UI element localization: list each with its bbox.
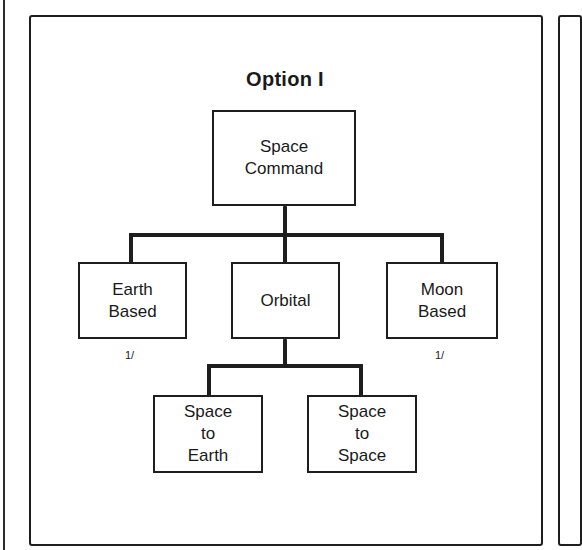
connector-moon-based bbox=[440, 233, 444, 263]
node-label-line: Space bbox=[260, 136, 308, 158]
node-label-line: Moon bbox=[421, 279, 464, 301]
node-label-line: Space bbox=[338, 445, 386, 467]
node-label-line: Command bbox=[245, 158, 323, 180]
node-label-line: Earth bbox=[188, 445, 229, 467]
node-label-line: to bbox=[201, 423, 215, 445]
node-label-line: Orbital bbox=[260, 290, 310, 312]
diagram-title: Option I bbox=[29, 68, 541, 91]
connector-earth-based bbox=[129, 233, 133, 263]
node-moon-based: Moon Based bbox=[386, 262, 498, 339]
page-edge-line bbox=[3, 0, 5, 550]
node-orbital: Orbital bbox=[231, 262, 340, 339]
adjacent-panel-edge bbox=[558, 15, 582, 546]
node-space-command: Space Command bbox=[212, 110, 356, 206]
footnote-earth-based: 1/ bbox=[125, 349, 134, 361]
connector-space-to-space bbox=[359, 364, 363, 396]
node-earth-based: Earth Based bbox=[78, 262, 187, 339]
node-label-line: Space bbox=[338, 401, 386, 423]
connector-level1-bar bbox=[129, 233, 444, 237]
node-space-to-space: Space to Space bbox=[307, 395, 417, 473]
node-space-to-earth: Space to Earth bbox=[153, 395, 263, 473]
node-label-line: Based bbox=[108, 301, 156, 323]
footnote-moon-based: 1/ bbox=[435, 349, 444, 361]
node-label-line: to bbox=[355, 423, 369, 445]
connector-level2-bar bbox=[207, 364, 363, 368]
node-label-line: Earth bbox=[112, 279, 153, 301]
connector-space-to-earth bbox=[207, 364, 211, 396]
node-label-line: Space bbox=[184, 401, 232, 423]
node-label-line: Based bbox=[418, 301, 466, 323]
